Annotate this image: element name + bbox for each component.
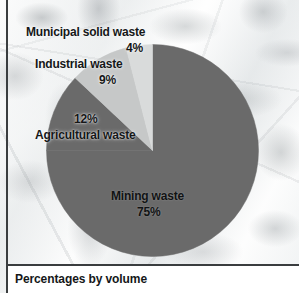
chart-caption: Percentages by volume bbox=[15, 272, 147, 286]
pie-chart-svg bbox=[0, 0, 299, 293]
footer-horizontal-rule bbox=[6, 264, 299, 266]
pie-plot-area bbox=[0, 0, 299, 293]
slice-label-agricultural-waste: Agricultural waste bbox=[35, 129, 135, 142]
slice-value-municipal-solid-waste: 4% bbox=[126, 42, 143, 55]
slice-value-agricultural-waste: 12% bbox=[74, 113, 97, 126]
slice-label-municipal-solid-waste: Municipal solid waste bbox=[26, 26, 145, 39]
slice-value-industrial-waste: 9% bbox=[99, 74, 116, 87]
slice-label-industrial-waste: Industrial waste bbox=[35, 58, 123, 71]
slice-value-mining-waste: 75% bbox=[137, 206, 160, 219]
pie-chart-figure: Municipal solid waste 4% Industrial wast… bbox=[0, 0, 299, 293]
slice-label-mining-waste: Mining waste bbox=[111, 190, 184, 203]
